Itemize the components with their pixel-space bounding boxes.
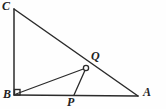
vertex-label-c: C: [2, 0, 10, 12]
geometry-figure: C B A Q P: [0, 0, 166, 109]
vertex-label-b: B: [3, 88, 11, 100]
segment-ba: [14, 95, 138, 96]
figure-canvas: [0, 0, 166, 109]
point-marker-q: [83, 65, 88, 70]
segment-ca: [14, 9, 138, 96]
vertex-label-a: A: [143, 86, 151, 98]
vertex-label-q: Q: [91, 50, 100, 62]
vertex-label-p: P: [67, 96, 74, 108]
